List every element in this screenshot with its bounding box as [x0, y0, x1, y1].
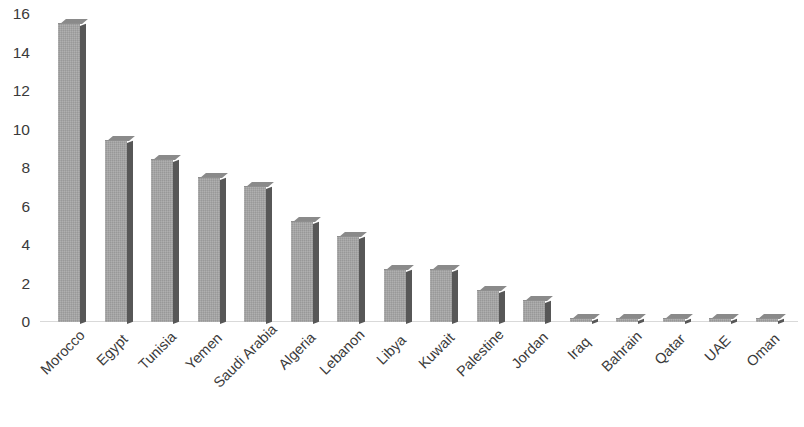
bar-side-face	[406, 270, 412, 324]
bar-side-face	[173, 160, 179, 324]
bar-side-face	[313, 222, 319, 324]
y-axis: 1614121086420	[0, 0, 38, 427]
y-axis-tick-label: 6	[0, 199, 30, 215]
bar-front-face	[384, 269, 406, 322]
bar-side-face	[499, 291, 505, 324]
bar	[151, 160, 173, 322]
x-axis-tick-label: Tunisia	[136, 330, 179, 373]
bar	[570, 319, 592, 322]
bar	[756, 319, 778, 322]
bar-front-face	[291, 221, 313, 322]
plot-area	[40, 0, 804, 324]
y-axis-tick-label: 14	[0, 45, 30, 61]
bar-front-face	[151, 159, 173, 322]
y-axis-tick-label: 4	[0, 237, 30, 253]
bar	[384, 270, 406, 322]
bar	[430, 270, 452, 322]
x-axis-tick-label: Yemen	[183, 330, 225, 372]
y-axis-tick-label: 0	[0, 314, 30, 330]
bar	[58, 24, 80, 322]
x-axis-tick-label: Libya	[374, 332, 409, 367]
x-axis-tick-label: Palestine	[454, 327, 506, 379]
x-axis-tick-label: Kuwait	[416, 330, 457, 371]
bar	[663, 319, 685, 322]
x-axis-tick-label: Egypt	[94, 332, 130, 368]
bar	[337, 237, 359, 322]
bar-side-face	[266, 187, 272, 324]
x-axis-tick-label: Bahrain	[599, 329, 645, 375]
bar-side-face	[359, 237, 365, 324]
bar-front-face	[663, 318, 685, 322]
bar	[244, 187, 266, 322]
bar-front-face	[244, 186, 266, 322]
bar	[477, 291, 499, 322]
x-axis-tick-label: Algeria	[276, 330, 318, 372]
bar-front-face	[198, 177, 220, 322]
x-axis-tick-label: Saudi Arabia	[211, 322, 279, 390]
x-axis-tick-label: Lebanon	[317, 328, 367, 378]
bar-front-face	[58, 23, 80, 322]
bar-side-face	[80, 23, 86, 324]
y-axis-tick-label: 12	[0, 83, 30, 99]
bar	[291, 222, 313, 322]
bar-front-face	[523, 300, 545, 322]
bar-front-face	[570, 318, 592, 322]
y-axis-tick-label: 10	[0, 122, 30, 138]
x-axis-tick-label: Jordan	[509, 330, 551, 372]
bar-chart: 1614121086420 MoroccoEgyptTunisiaYemenSa…	[0, 0, 804, 427]
bar-front-face	[477, 290, 499, 322]
bar-front-face	[430, 269, 452, 322]
bar	[198, 178, 220, 322]
bar-front-face	[709, 318, 731, 322]
bar-front-face	[616, 318, 638, 322]
bar-front-face	[337, 236, 359, 322]
bar	[105, 141, 127, 322]
x-axis-tick-label: Qatar	[652, 332, 688, 368]
bar-front-face	[756, 318, 778, 322]
y-axis-tick-label: 16	[0, 6, 30, 22]
bar-front-face	[105, 140, 127, 322]
y-axis-tick-label: 8	[0, 160, 30, 176]
x-axis-tick-label: Morocco	[38, 328, 88, 378]
x-axis: MoroccoEgyptTunisiaYemenSaudi ArabiaAlge…	[40, 324, 804, 427]
bar-side-face	[127, 141, 133, 324]
x-axis-tick-label: Oman	[744, 331, 782, 369]
y-axis-tick-label: 2	[0, 276, 30, 292]
bar-side-face	[452, 270, 458, 324]
bar-side-face	[545, 301, 551, 324]
bar-side-face	[220, 177, 226, 324]
bar	[709, 319, 731, 322]
x-axis-tick-label: Iraq	[565, 334, 593, 362]
bar	[523, 301, 545, 322]
x-axis-tick-label: UAE	[702, 333, 733, 364]
bar	[616, 319, 638, 322]
